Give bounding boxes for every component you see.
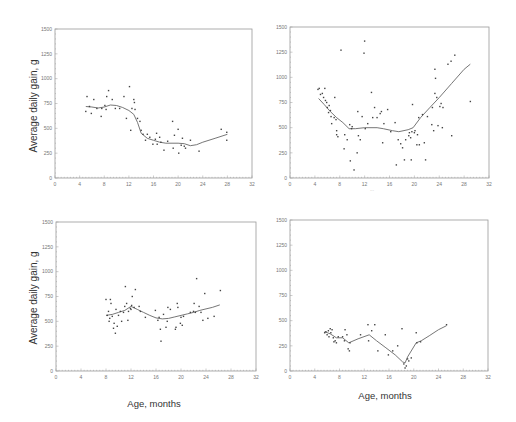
data-point	[108, 311, 109, 312]
data-point	[418, 117, 419, 118]
data-point	[177, 303, 178, 304]
data-point	[109, 318, 110, 319]
data-point	[408, 135, 409, 136]
data-point	[347, 348, 348, 349]
data-point	[331, 329, 332, 330]
data-point	[410, 137, 411, 138]
data-point	[178, 152, 179, 153]
x-tick-label: 28	[228, 374, 234, 380]
data-point	[142, 134, 143, 135]
y-tick-label: 500	[45, 318, 54, 324]
data-point	[182, 325, 183, 326]
data-point	[356, 152, 357, 153]
data-point	[396, 164, 397, 165]
x-tick-label: 24	[436, 181, 442, 187]
data-point	[358, 135, 359, 136]
data-point	[344, 134, 345, 135]
data-point	[437, 125, 438, 126]
data-point	[174, 135, 175, 136]
data-point	[360, 334, 361, 335]
data-point	[133, 99, 134, 100]
data-point	[409, 132, 410, 133]
y-tick-label: 500	[279, 124, 288, 130]
data-point	[388, 354, 389, 355]
x-tick-label: 0	[289, 374, 292, 380]
data-point	[207, 318, 208, 319]
data-point	[110, 303, 111, 304]
x-tick-label: 28	[460, 374, 466, 380]
data-point	[340, 49, 341, 50]
data-point	[100, 116, 101, 117]
data-point	[317, 89, 318, 90]
data-point	[383, 123, 384, 124]
data-point	[138, 306, 139, 307]
data-point	[107, 315, 108, 316]
y-tick-label: 1250	[276, 242, 287, 248]
y-axis-label-bottom: Average daily gain, g	[28, 251, 39, 344]
data-point	[163, 149, 164, 150]
y-tick-label: 1000	[276, 74, 287, 80]
data-point	[118, 315, 119, 316]
data-point	[416, 144, 417, 145]
data-point	[160, 142, 161, 143]
data-point	[405, 139, 406, 140]
data-point	[180, 317, 181, 318]
data-point	[130, 309, 131, 310]
data-point	[427, 116, 428, 117]
data-point	[371, 92, 372, 93]
data-point	[414, 130, 415, 131]
chart-panel-top-right: 0481216202428320250500750100012501500	[276, 24, 492, 187]
data-point	[344, 329, 345, 330]
data-point	[382, 142, 383, 143]
data-point	[133, 307, 134, 308]
data-point	[108, 321, 109, 322]
data-point	[115, 309, 116, 310]
data-point	[330, 110, 331, 111]
data-point	[106, 96, 107, 97]
x-tick-label: 20	[178, 374, 184, 380]
data-point	[163, 314, 164, 315]
y-tick-label: 1500	[276, 24, 287, 30]
data-point	[442, 107, 443, 108]
data-point	[404, 159, 405, 160]
data-point	[167, 307, 168, 308]
data-point	[134, 109, 135, 110]
data-point	[115, 333, 116, 334]
y-tick-label: 1000	[42, 268, 53, 274]
data-point	[347, 139, 348, 140]
data-point	[126, 118, 127, 119]
data-point	[124, 306, 125, 307]
x-tick-label: 16	[386, 374, 392, 380]
data-point	[180, 323, 181, 324]
y-tick-label: 1000	[41, 75, 52, 81]
data-point	[177, 307, 178, 308]
y-tick-label: 750	[279, 99, 288, 105]
plot-frame	[56, 222, 256, 371]
x-tick-label: 24	[203, 374, 209, 380]
data-point	[360, 139, 361, 140]
data-point	[190, 312, 191, 313]
data-point	[344, 340, 345, 341]
data-point	[351, 126, 352, 127]
data-point	[342, 336, 343, 337]
data-point	[374, 107, 375, 108]
data-point	[414, 132, 415, 133]
data-point	[139, 121, 140, 122]
x-tick-label: 16	[153, 374, 159, 380]
data-point	[200, 312, 201, 313]
data-point	[115, 108, 116, 109]
data-point	[353, 169, 354, 170]
data-point	[392, 350, 393, 351]
data-point	[158, 317, 159, 318]
data-point	[357, 111, 358, 112]
data-point	[121, 321, 122, 322]
data-point	[155, 139, 156, 140]
data-point	[363, 52, 364, 53]
data-point	[365, 128, 366, 129]
data-point	[439, 106, 440, 107]
data-point	[390, 131, 391, 132]
data-point	[326, 334, 327, 335]
data-point	[149, 137, 150, 138]
data-point	[140, 311, 141, 312]
data-point	[127, 320, 128, 321]
